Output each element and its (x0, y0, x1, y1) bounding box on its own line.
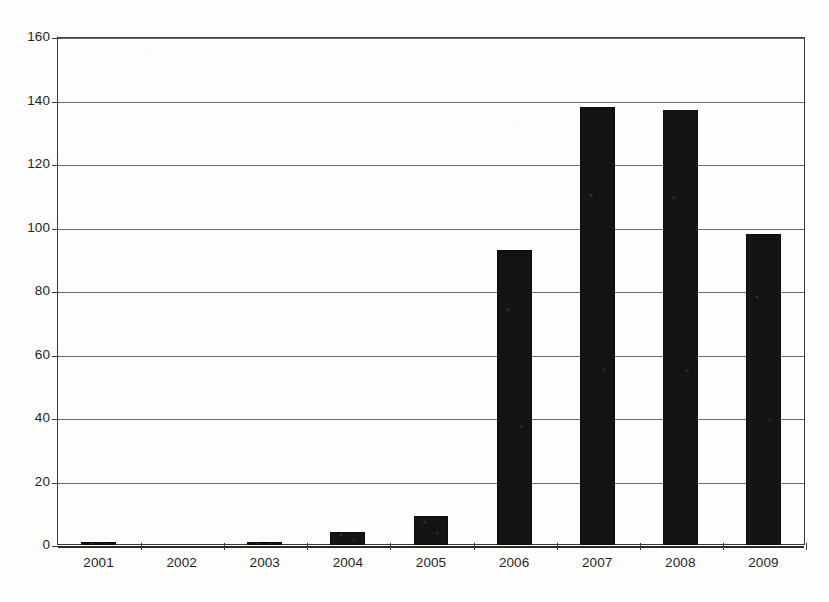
y-tick-0 (52, 546, 59, 547)
bar-2001 (81, 542, 116, 545)
bar-2008 (663, 110, 698, 545)
x-axis-label-2007: 2007 (582, 556, 612, 570)
x-axis-label-2002: 2002 (166, 556, 196, 570)
bar-2007 (580, 107, 615, 545)
x-tick-2009 (806, 543, 807, 550)
bar-2003 (247, 542, 282, 545)
x-axis-label-2001: 2001 (83, 556, 113, 570)
x-axis-label-2008: 2008 (665, 556, 695, 570)
x-axis-label-2004: 2004 (333, 556, 363, 570)
y-axis-label-60: 60 (6, 348, 50, 362)
x-axis-label-2003: 2003 (250, 556, 280, 570)
bar-chart-figure: 020406080100120140160 200120022003200420… (0, 0, 829, 602)
scanned-page-background: 020406080100120140160 200120022003200420… (0, 0, 829, 602)
bar-2004 (330, 532, 365, 545)
bar-2009 (746, 234, 781, 545)
y-axis-label-140: 140 (6, 94, 50, 108)
bars-layer (57, 37, 805, 545)
y-axis-label-20: 20 (6, 475, 50, 489)
y-axis-label-0: 0 (6, 538, 50, 552)
y-axis-label-80: 80 (6, 284, 50, 298)
bar-2005 (414, 516, 449, 545)
y-axis-label-120: 120 (6, 157, 50, 171)
y-axis-labels: 020406080100120140160 (0, 0, 50, 602)
y-axis-label-100: 100 (6, 221, 50, 235)
x-axis-label-2006: 2006 (499, 556, 529, 570)
x-axis-labels: 200120022003200420052006200720082009 (57, 556, 805, 580)
gridline-0 (58, 546, 804, 548)
x-axis-label-2005: 2005 (416, 556, 446, 570)
y-axis-label-160: 160 (6, 30, 50, 44)
y-axis-label-40: 40 (6, 411, 50, 425)
x-axis-label-2009: 2009 (748, 556, 778, 570)
bar-2006 (497, 250, 532, 545)
